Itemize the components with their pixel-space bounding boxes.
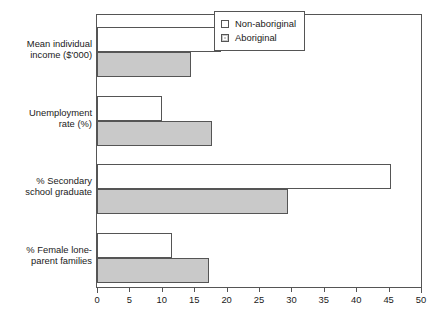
plot-area (96, 14, 422, 288)
legend: Non-aboriginal Aboriginal (214, 11, 305, 51)
y-axis-label-mean-individual-income: Mean individual income ($'000) (0, 38, 92, 61)
legend-item-non-aboriginal: Non-aboriginal (221, 17, 296, 30)
x-axis: 05101520253035404550 (96, 288, 422, 318)
bar-non-aboriginal-group-4 (97, 233, 172, 258)
bar-non-aboriginal-group-1 (97, 27, 221, 52)
x-axis-tick (227, 288, 228, 292)
y-axis-label-unemployment-rate: Unemployment rate (%) (0, 107, 92, 130)
x-axis-tick (129, 288, 130, 292)
x-axis-tick-label: 0 (82, 294, 112, 305)
x-axis-tick-label: 15 (179, 294, 209, 305)
x-axis-tick (356, 288, 357, 292)
x-axis-tick-label: 5 (114, 294, 144, 305)
horizontal-bar-chart: Mean individual income ($'000) Unemploym… (0, 0, 439, 320)
y-axis-label-female-lone-parent-families: % Female lone- parent families (0, 244, 92, 267)
y-axis-label-line: rate (%) (0, 118, 92, 129)
x-axis-tick-label: 45 (374, 294, 404, 305)
x-axis-tick (259, 288, 260, 292)
y-axis-label-line: income ($'000) (0, 49, 92, 60)
x-axis-tick (421, 288, 422, 293)
y-axis-label-line: % Secondary (0, 175, 92, 186)
bar-non-aboriginal-group-3 (97, 164, 391, 189)
x-axis-tick-label: 40 (341, 294, 371, 305)
y-axis-category-labels: Mean individual income ($'000) Unemploym… (0, 14, 92, 288)
x-axis-tick-label: 20 (212, 294, 242, 305)
x-axis-tick (162, 288, 163, 292)
x-axis-tick (389, 288, 390, 292)
bar-non-aboriginal-group-2 (97, 96, 162, 121)
y-axis-label-line: Mean individual (0, 38, 92, 49)
x-axis-tick-label: 25 (244, 294, 274, 305)
bar-aboriginal-group-1 (97, 52, 191, 77)
legend-item-aboriginal: Aboriginal (221, 31, 296, 44)
x-axis-tick (194, 288, 195, 292)
x-axis-tick-label: 50 (406, 294, 436, 305)
white-square-icon (221, 20, 229, 28)
gray-square-icon (221, 34, 229, 42)
y-axis-label-line: school graduate (0, 186, 92, 197)
bar-aboriginal-group-2 (97, 121, 212, 146)
x-axis-tick (324, 288, 325, 292)
x-axis-tick-label: 30 (276, 294, 306, 305)
x-axis-tick (97, 288, 98, 293)
y-axis-label-secondary-school-graduate: % Secondary school graduate (0, 175, 92, 198)
x-axis-tick (291, 288, 292, 292)
x-axis-tick-label: 10 (147, 294, 177, 305)
legend-item-label: Aboriginal (235, 33, 277, 43)
legend-item-label: Non-aboriginal (235, 19, 296, 29)
x-axis-tick-label: 35 (309, 294, 339, 305)
y-axis-label-line: Unemployment (0, 107, 92, 118)
y-axis-label-line: % Female lone- (0, 244, 92, 255)
bar-aboriginal-group-3 (97, 189, 288, 214)
bar-aboriginal-group-4 (97, 258, 209, 283)
y-axis-label-line: parent families (0, 255, 92, 266)
